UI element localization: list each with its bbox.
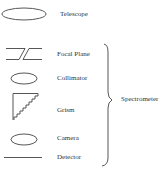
spectrometer-diagram: Telescope Focal Plane Collimator Grism C… xyxy=(0,0,167,174)
collimator-label: Collimator xyxy=(57,75,87,82)
grism-label: Grism xyxy=(57,107,75,114)
collimator-icon xyxy=(11,73,37,84)
detector-label: Detector xyxy=(57,154,81,161)
curly-brace-icon xyxy=(102,44,112,166)
spectrometer-label: Spectrometer xyxy=(121,96,158,103)
telescope-icon xyxy=(2,8,46,20)
grism-icon xyxy=(13,94,38,121)
focal-plane-icon xyxy=(6,49,42,60)
telescope-label: Telescope xyxy=(60,11,88,18)
camera-icon xyxy=(11,134,37,145)
focal-plane-label: Focal Plane xyxy=(57,51,90,58)
camera-label: Camera xyxy=(57,135,79,142)
